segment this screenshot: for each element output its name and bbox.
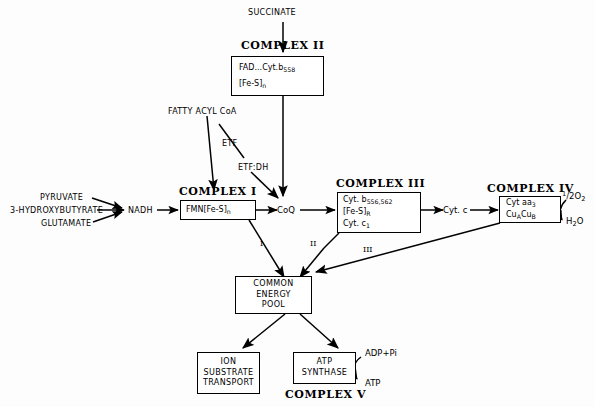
label-succinate: SUCCINATE [248,8,296,17]
edge-site2-bend [324,233,339,248]
diagram-canvas: SUCCINATE COMPLEX II FAD...Cyt.b558 [Fe-… [0,0,595,407]
complex2-line1: FAD...Cyt.b558 [239,63,295,73]
atp-synthase-box: ATP SYNTHASE [293,352,356,384]
complex1-contents: FMN[Fe-S]n [186,205,231,215]
complex3-line3: Cyt. c1 [343,219,370,229]
complex3-line2-main: [Fe-S] [343,207,366,216]
edge-pool-to-atp-synthase [300,314,338,348]
energy-pool-line2: POOL [262,300,285,311]
label-cyt-c: Cyt. c [443,205,467,215]
label-etf-dh: ETF:DH [238,163,269,172]
edge-site1-to-pool [249,220,284,277]
edge-pool-to-ion-transport [243,314,285,348]
complex3-line3-sub: 1 [366,222,370,229]
label-coq: CoQ [277,205,295,215]
label-water: H2O [566,216,583,228]
complex4-line1-sub: 3 [532,201,536,208]
complex2-line2-sub: n [262,82,266,89]
complex4-line1: Cyt aa3 [506,198,536,208]
label-nadh: NADH [128,206,153,215]
coupling-site-2-label: II [310,239,316,248]
energy-pool-line1: COMMON ENERGY [236,279,311,301]
ion-transport-line3: TRANSPORT [203,378,254,389]
label-half-oxygen: 1/2O2 [562,190,585,203]
complex4-line2-a: Cu [506,210,517,219]
complex2-line2: [Fe-S]n [239,79,266,89]
complex1-title: COMPLEX I [179,185,257,198]
complex3-line1: Cyt. b556,562 [343,195,392,205]
label-atp: ATP [365,378,380,388]
label-fatty-acyl-coa: FATTY ACYL CoA [168,107,237,116]
label-adp-pi: ADP+Pi [365,348,397,358]
water-o: O [577,216,584,226]
complex3-line2-sub: R [366,210,370,217]
complex3-line1-main: Cyt. b [343,195,367,204]
label-3-hydroxybutyrate: 3-HYDROXYBUTYRATE [10,206,103,215]
complex5-title: COMPLEX V [285,388,366,401]
complex3-line2: [Fe-S]R [343,207,371,217]
atp-synthase-line1: ATP [317,357,333,368]
complex2-title: COMPLEX II [241,39,325,52]
label-glutamate: GLUTAMATE [41,219,91,228]
ion-substrate-transport-box: ION SUBSTRATE TRANSPORT [197,352,260,394]
complex2-line1-main: FAD...Cyt.b [239,63,283,72]
edge-fattyacyl-to-complex1 [207,116,214,190]
complex2-box [231,56,324,96]
complex2-line2-main: [Fe-S] [239,79,262,88]
complex4-line2-b-sub: B [532,213,536,220]
complex4-line2: CuACuB [506,210,536,220]
complex3-line3-main: Cyt. c [343,219,366,228]
complex1-contents-main: FMN[Fe-S] [186,205,227,214]
complex2-line1-sub: 558 [283,66,295,73]
coupling-site-3-label: III [363,245,372,254]
label-etf: ETF [222,139,237,148]
edge-site2-to-pool [300,248,324,277]
atp-synthase-line2: SYNTHASE [302,368,348,379]
label-pyruvate: PYRUVATE [40,193,83,202]
complex4-line1-main: Cyt aa [506,198,532,207]
oxygen-species-sub: 2 [581,195,585,203]
complex4-line2-b: Cu [521,210,532,219]
common-energy-pool-box: COMMON ENERGY POOL [235,276,312,314]
ion-transport-line1: ION [221,357,237,368]
complex3-line1-sub: 556,562 [367,198,393,205]
ion-transport-line2: SUBSTRATE [204,368,254,379]
complex3-title: COMPLEX III [336,177,425,190]
complex4-title: COMPLEX IV [487,182,574,195]
complex1-contents-sub: n [227,208,231,215]
coupling-site-1-label: I [260,239,263,248]
